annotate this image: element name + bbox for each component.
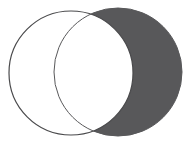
left-set-circle <box>9 11 133 135</box>
venn-diagram-figure <box>0 0 190 150</box>
venn-diagram-svg <box>0 0 190 150</box>
